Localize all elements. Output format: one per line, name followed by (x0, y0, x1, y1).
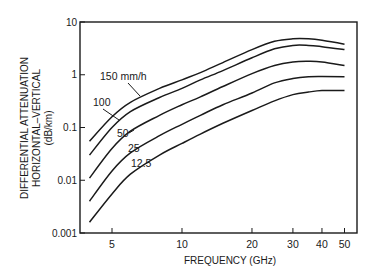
attenuation-chart: 0.0010.010.1110 51020304050 DIFFERENTIAL… (0, 0, 376, 277)
curve-12-5-mm-h (90, 91, 345, 223)
y-tick-label: 0.001 (52, 228, 77, 239)
series-label: 25 (128, 142, 140, 154)
y-axis-label-line-2: HORIZONTAL–VERTICAL (31, 69, 42, 187)
y-axis-label-line-3: (dB/km) (43, 111, 54, 146)
x-tick-label: 20 (246, 238, 258, 250)
label-leader-line (128, 83, 140, 96)
series-label: 12.5 (131, 157, 152, 169)
x-tick-label: 5 (109, 238, 115, 250)
x-tick-label: 30 (287, 238, 299, 250)
x-tick-label: 10 (176, 238, 188, 250)
y-tick-label: 0.01 (58, 175, 78, 186)
x-axis-ticks: 51020304050 (109, 228, 350, 250)
series-label: 150 mm/h (100, 70, 147, 82)
x-tick-label: 40 (316, 238, 328, 250)
x-axis-label: FREQUENCY (GHz) (184, 255, 276, 266)
series-labels: 150 mm/h100502512.5 (93, 70, 152, 169)
y-tick-label: 10 (66, 17, 78, 28)
y-tick-label: 1 (71, 69, 77, 80)
x-tick-label: 50 (339, 238, 351, 250)
series-label: 100 (93, 96, 111, 108)
y-axis-label-line-1: DIFFERENTIAL ATTENUATION (19, 57, 30, 199)
series-label: 50 (117, 127, 129, 139)
y-tick-label: 0.1 (63, 122, 77, 133)
y-axis-label: DIFFERENTIAL ATTENUATION HORIZONTAL–VERT… (19, 57, 54, 199)
